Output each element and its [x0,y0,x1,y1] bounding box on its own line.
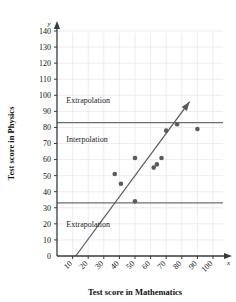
data-point [155,162,160,167]
y-tick-label: 80 [43,123,51,132]
data-point [133,199,138,204]
y-tick-label: 70 [43,139,51,148]
y-tick-label: 50 [43,172,51,181]
y-tick-label: 130 [39,43,51,52]
y-tick-label: 20 [43,220,51,229]
data-point [175,122,180,127]
figure-background [0,0,236,302]
data-point [119,181,124,186]
data-point [159,156,164,161]
interpolation-label: Interpolation [66,135,107,144]
y-tick-label: 30 [43,204,51,213]
data-point [195,127,200,132]
upper-extrapolation-label: Extrapolation [66,96,110,105]
data-point [133,156,138,161]
y-tick-label: 40 [43,188,51,197]
y-tick-label: 140 [39,27,51,36]
lower-extrapolation-label: Extrapolation [66,220,110,229]
y-axis-title: Test score in Physics [6,106,16,181]
y-tick-label: 90 [43,107,51,116]
data-point [112,172,117,177]
data-point [164,128,169,133]
x-axis-title: Test score in Mathematics [88,287,183,297]
y-tick-label: 110 [39,75,51,84]
y-tick-label: 10 [43,236,51,245]
y-tick-label: 120 [39,59,51,68]
y-tick-label: 100 [39,91,51,100]
y-tick-label: 0 [47,252,51,261]
scatter-plot-figure: 0102030405060708090100110120130140102030… [0,0,236,302]
y-tick-label: 60 [43,155,51,164]
